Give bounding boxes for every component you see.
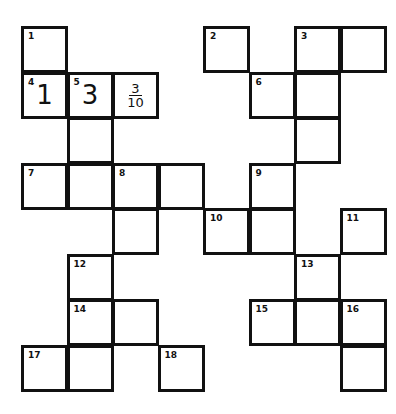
crossword-cell[interactable]: [67, 117, 114, 164]
crossword-cell-2[interactable]: 2: [203, 26, 250, 73]
crossword-cell[interactable]: [294, 117, 341, 164]
cell-answer: 3: [70, 75, 111, 116]
crossword-cell-10[interactable]: 10: [203, 208, 250, 255]
crossword-cell[interactable]: [249, 208, 296, 255]
crossword-cell-6[interactable]: 6: [249, 72, 296, 119]
clue-number: 16: [347, 304, 360, 314]
crossword-cell-3[interactable]: 3: [294, 26, 341, 73]
clue-number: 1: [28, 31, 34, 41]
crossword-cell-16[interactable]: 16: [340, 299, 387, 346]
clue-number: 6: [256, 77, 262, 87]
clue-number: 3: [301, 31, 307, 41]
crossword-cell-9[interactable]: 9: [249, 163, 296, 210]
crossword-cell-14[interactable]: 14: [67, 299, 114, 346]
crossword-cell-17[interactable]: 17: [21, 345, 68, 392]
crossword-cell-18[interactable]: 18: [158, 345, 205, 392]
clue-number: 8: [119, 168, 125, 178]
clue-number: 11: [347, 213, 360, 223]
crossword-cell[interactable]: [158, 163, 205, 210]
clue-number: 7: [28, 168, 34, 178]
crossword-cell-7[interactable]: 7: [21, 163, 68, 210]
crossword-cell[interactable]: [112, 299, 159, 346]
clue-number: 13: [301, 259, 314, 269]
crossword-cell[interactable]: [294, 72, 341, 119]
clue-number: 9: [256, 168, 262, 178]
clue-number: 14: [74, 304, 87, 314]
crossword-cell[interactable]: [67, 163, 114, 210]
crossword-cell-13[interactable]: 13: [294, 254, 341, 301]
clue-number: 10: [210, 213, 223, 223]
crossword-cell-8[interactable]: 8: [112, 163, 159, 210]
crossword-cell-12[interactable]: 12: [67, 254, 114, 301]
clue-number: 2: [210, 31, 216, 41]
fraction: 310: [127, 82, 144, 109]
crossword-cell[interactable]: [112, 208, 159, 255]
clue-number: 12: [74, 259, 87, 269]
crossword-cell-4[interactable]: 41: [21, 72, 68, 119]
clue-number: 17: [28, 350, 41, 360]
fraction-numerator: 3: [129, 82, 141, 96]
crossword-cell[interactable]: [67, 345, 114, 392]
crossword-cell[interactable]: 310: [112, 72, 159, 119]
cell-answer: 1: [24, 75, 65, 116]
clue-number: 15: [256, 304, 269, 314]
crossword-cell-5[interactable]: 53: [67, 72, 114, 119]
crossword-cell-1[interactable]: 1: [21, 26, 68, 73]
cell-answer-fraction: 310: [115, 75, 156, 116]
crossword-cell[interactable]: [340, 26, 387, 73]
clue-number: 18: [165, 350, 178, 360]
crossword-cell[interactable]: [340, 345, 387, 392]
crossword-cell[interactable]: [294, 299, 341, 346]
crossword-cell-15[interactable]: 15: [249, 299, 296, 346]
fraction-denominator: 10: [127, 96, 144, 109]
crossword-cell-11[interactable]: 11: [340, 208, 387, 255]
crossword-grid: 12341533106789101112131415161718: [0, 0, 396, 414]
